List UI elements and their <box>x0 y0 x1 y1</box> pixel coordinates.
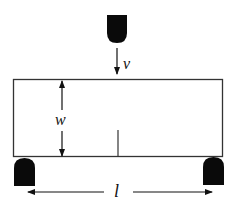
diagram-canvas <box>0 0 236 207</box>
span-label: l <box>114 182 119 200</box>
striker-loader <box>107 15 127 43</box>
width-label: w <box>55 112 66 128</box>
right-support <box>203 157 224 185</box>
three-point-bend-diagram: v w l <box>0 0 236 207</box>
velocity-label: v <box>123 56 130 72</box>
left-support <box>14 158 35 186</box>
